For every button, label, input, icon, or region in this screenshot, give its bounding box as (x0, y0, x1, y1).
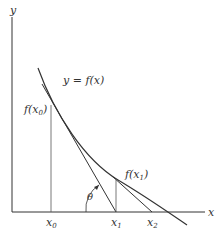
theta-label: θ (87, 191, 93, 202)
angle-arrowhead (94, 185, 99, 190)
tangent-at-x0 (42, 84, 116, 212)
x1-label: x1 (111, 216, 122, 230)
curve-label: y = f(x) (62, 74, 104, 87)
function-curve (38, 68, 187, 225)
x-axis-label: x (208, 206, 215, 219)
x2-label: x2 (147, 216, 158, 230)
fx0-label: f(x0) (23, 103, 47, 117)
x0-label: x0 (46, 216, 57, 230)
fx1-label: f(x1) (124, 168, 148, 182)
newton-method-diagram: y x y = f(x) f(x0) f(x1) x0 x1 x2 θ (0, 0, 223, 232)
tangent-at-x1 (112, 176, 152, 212)
y-axis-label: y (9, 4, 17, 17)
